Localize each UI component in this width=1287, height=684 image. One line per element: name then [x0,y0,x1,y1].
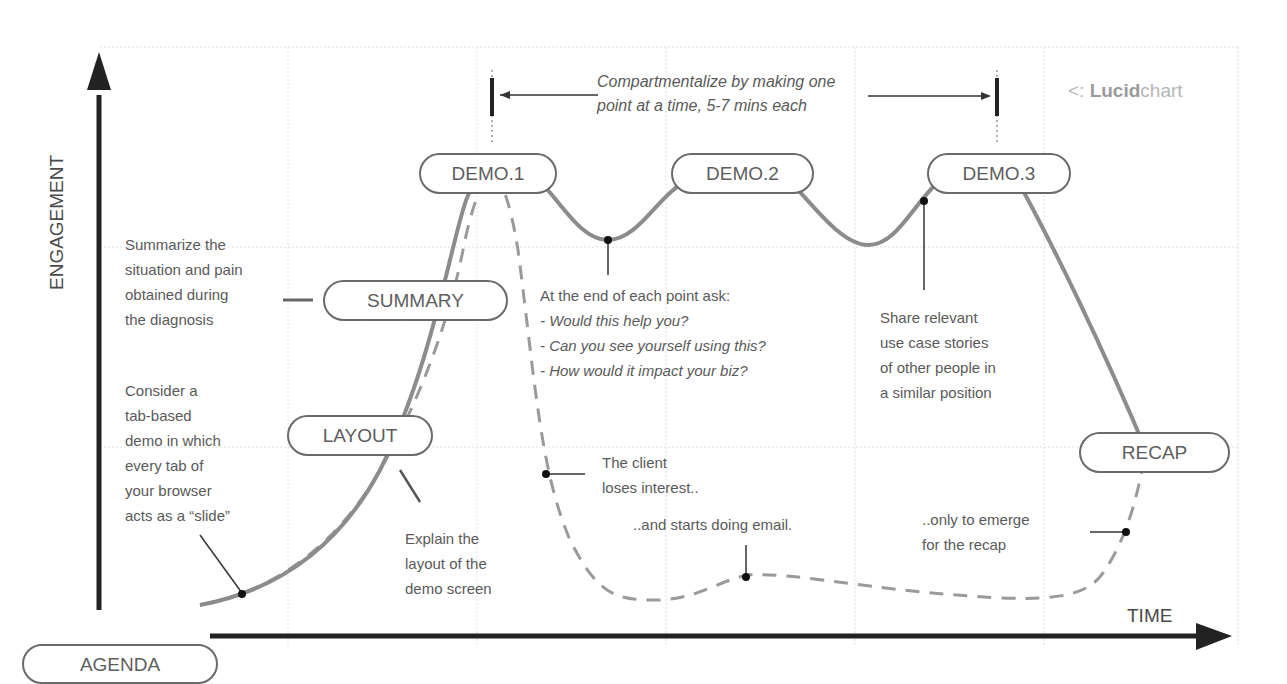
client-loses-interest-note: The client loses interest.. [602,450,699,500]
summary-note: Summarize the situation and pain obtaine… [125,232,243,332]
note-line: layout of the [405,551,492,576]
lucidchart-logo-icon: <: [1068,80,1084,101]
ask-question: - How would it impact your biz? [540,358,766,383]
stage-summary: SUMMARY [323,280,508,321]
share-note: Share relevant use case stories of other… [880,305,996,405]
note-line: Share relevant [880,305,996,330]
note-line: situation and pain [125,257,243,282]
x-axis-label: TIME [1127,605,1172,627]
note-line: for the recap [922,532,1030,557]
ask-question: - Can you see yourself using this? [540,333,766,358]
ask-note: At the end of each point ask: - Would th… [540,283,766,383]
logo-bold-text: Lucid [1090,80,1141,101]
stage-demo3: DEMO.3 [927,153,1071,194]
note-line: Explain the [405,526,492,551]
stage-demo1: DEMO.1 [419,153,557,194]
stage-demo2: DEMO.2 [671,153,814,194]
note-line: demo screen [405,576,492,601]
stage-agenda: AGENDA [22,644,218,684]
compartment-note-line: Compartmentalize by making one [597,70,835,94]
ask-question: - Would this help you? [540,308,766,333]
compartment-note-line: point at a time, 5-7 mins each [597,94,835,118]
note-line: acts as a “slide” [125,503,230,528]
layout-note: Explain the layout of the demo screen [405,526,492,601]
note-line: ..only to emerge [922,507,1030,532]
stage-layout: LAYOUT [287,415,433,456]
note-line: obtained during [125,282,243,307]
note-line: Summarize the [125,232,243,257]
lucidchart-logo: <: Lucidchart [1068,80,1183,102]
note-line: loses interest.. [602,475,699,500]
note-line: of other people in [880,355,996,380]
compartment-note: Compartmentalize by making one point at … [597,70,835,118]
emerge-note: ..only to emerge for the recap [922,507,1030,557]
note-line: use case stories [880,330,996,355]
note-line: The client [602,450,699,475]
note-line: the diagnosis [125,307,243,332]
ask-note-heading: At the end of each point ask: [540,283,766,308]
note-line: your browser [125,478,230,503]
note-line: Consider a [125,378,230,403]
logo-light-text: chart [1140,80,1182,101]
tab-based-note: Consider a tab-based demo in which every… [125,378,230,528]
y-axis-label: ENGAGEMENT [46,155,68,290]
note-line: every tab of [125,453,230,478]
stage-recap: RECAP [1079,432,1230,473]
note-line: a similar position [880,380,996,405]
email-note: ..and starts doing email. [633,512,792,537]
note-line: demo in which [125,428,230,453]
note-line: tab-based [125,403,230,428]
